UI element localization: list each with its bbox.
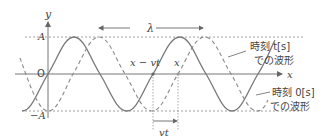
legend-time-t-line1: 時刻 t[s] xyxy=(250,40,290,52)
point-x-minus-vt xyxy=(151,72,154,75)
legend-time-0-line1: 時刻 0[s] xyxy=(272,86,315,98)
leader-time-t xyxy=(228,51,246,57)
vt-label: vt xyxy=(159,127,170,138)
x-axis-label: x xyxy=(287,69,293,80)
wave-diagram: y x O A −A λ x − vt x vt 時刻 t[s] での波形 時刻… xyxy=(0,0,327,140)
amplitude-neg-label: −A xyxy=(30,110,46,121)
leader-time-0 xyxy=(256,92,270,95)
legend-time-0-line2: での波形 xyxy=(270,100,310,112)
origin-label: O xyxy=(37,68,45,79)
x-label: x xyxy=(174,57,180,68)
x-minus-vt-label: x − vt xyxy=(130,57,161,68)
amplitude-pos-label: A xyxy=(37,31,45,42)
legend-time-t-line2: での波形 xyxy=(254,54,294,66)
wavelength-label: λ xyxy=(146,22,154,35)
y-axis-label: y xyxy=(44,8,52,21)
point-x xyxy=(176,72,179,75)
